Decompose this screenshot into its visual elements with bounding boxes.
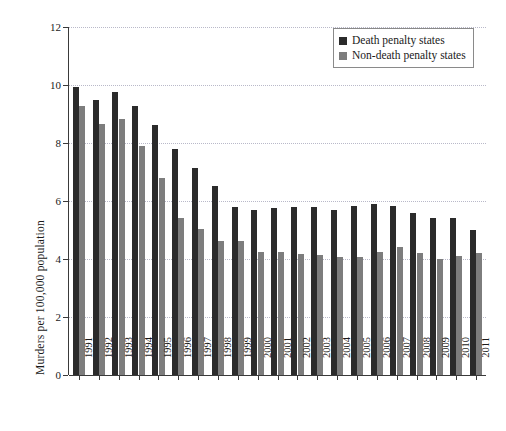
x-tick-mark (158, 376, 159, 380)
x-tick-mark (417, 376, 418, 380)
y-tick-label: 6 (35, 195, 61, 207)
x-tick-label: 2004 (341, 337, 352, 383)
x-tick-mark (357, 376, 358, 380)
x-tick-label: 2001 (282, 337, 293, 383)
x-tick-label: 2006 (381, 337, 392, 383)
x-tick-mark (436, 376, 437, 380)
legend-swatch-icon (339, 37, 347, 45)
x-tick-mark (178, 376, 179, 380)
y-tick-label: 8 (35, 137, 61, 149)
x-tick-label: 1994 (143, 337, 154, 383)
x-tick-mark (456, 376, 457, 380)
x-tick-label: 1993 (123, 337, 134, 383)
x-tick-mark (139, 376, 140, 380)
legend-item-death-penalty-states: Death penalty states (339, 33, 466, 48)
x-tick-label: 2002 (301, 337, 312, 383)
chart-legend: Death penalty states Non-death penalty s… (333, 28, 474, 68)
bar (79, 106, 85, 375)
x-tick-label: 1996 (182, 337, 193, 383)
x-tick-label: 2005 (361, 337, 372, 383)
x-tick-label: 2003 (321, 337, 332, 383)
x-tick-label: 1997 (202, 337, 213, 383)
x-tick-mark (79, 376, 80, 380)
legend-label: Death penalty states (352, 33, 445, 48)
plot-area (69, 27, 486, 375)
x-tick-mark (377, 376, 378, 380)
legend-item-non-death-penalty-states: Non-death penalty states (339, 48, 466, 63)
bar (93, 100, 99, 376)
x-tick-label: 1999 (242, 337, 253, 383)
murder-rate-bar-chart: Murders per 100,000 population 024681012… (0, 0, 506, 431)
y-tick-label: 4 (35, 253, 61, 265)
x-tick-label: 1992 (103, 337, 114, 383)
legend-label: Non-death penalty states (352, 48, 466, 63)
x-tick-mark (238, 376, 239, 380)
x-tick-label: 2008 (421, 337, 432, 383)
x-tick-label: 1991 (83, 337, 94, 383)
x-tick-mark (258, 376, 259, 380)
x-tick-mark (317, 376, 318, 380)
bar (112, 92, 118, 375)
y-tick-mark (63, 375, 68, 376)
x-tick-label: 1995 (162, 337, 173, 383)
y-tick-label: 0 (35, 369, 61, 381)
x-tick-label: 2000 (262, 337, 273, 383)
x-tick-mark (278, 376, 279, 380)
x-tick-mark (198, 376, 199, 380)
x-tick-mark (397, 376, 398, 380)
bar (73, 87, 79, 375)
x-tick-mark (99, 376, 100, 380)
y-tick-label: 2 (35, 311, 61, 323)
x-tick-label: 2010 (460, 337, 471, 383)
legend-swatch-icon (339, 52, 347, 60)
y-tick-label: 12 (35, 21, 61, 33)
x-tick-mark (119, 376, 120, 380)
x-tick-mark (476, 376, 477, 380)
x-tick-mark (297, 376, 298, 380)
x-tick-label: 2009 (440, 337, 451, 383)
bar (132, 106, 138, 375)
x-tick-mark (337, 376, 338, 380)
x-tick-mark (218, 376, 219, 380)
x-tick-label: 1998 (222, 337, 233, 383)
x-tick-label: 2011 (480, 337, 491, 383)
y-tick-label: 10 (35, 79, 61, 91)
x-tick-label: 2007 (401, 337, 412, 383)
